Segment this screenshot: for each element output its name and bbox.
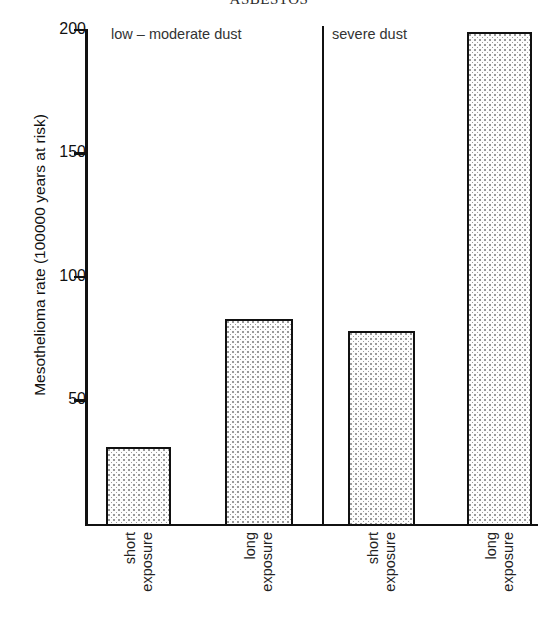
x-axis-label: longexposure [241,532,259,616]
x-axis-label-line1: long [242,532,258,559]
y-tick-label: 50 [40,390,86,408]
x-axis-label-line1: long [483,532,499,559]
chart-title: ASBESTOS [0,0,538,8]
panel-label-severe-dust: severe dust [332,26,407,42]
y-axis-title: Mesothelioma rate (100000 years at risk) [31,25,49,485]
bar [106,447,171,526]
x-axis-label-line2: exposure [381,532,399,616]
x-axis-label-line1: short [122,532,138,564]
panel-divider-line [322,26,324,525]
x-axis-label-line2: exposure [499,532,517,616]
x-axis-label: shortexposure [364,532,382,616]
x-axis-label-line1: short [365,532,381,564]
y-tick-label: 100 [40,267,86,285]
y-tick-label: 200 [40,20,86,38]
bar [225,319,293,526]
bar [467,32,532,526]
x-axis-label: longexposure [482,532,500,616]
bar [348,331,415,526]
x-axis-label: shortexposure [121,532,139,616]
x-axis-label-line2: exposure [138,532,156,616]
panel-label-low-moderate-dust: low – moderate dust [111,26,242,42]
y-tick-label: 150 [40,143,86,161]
chart-figure: ASBESTOS Mesothelioma rate (100000 years… [0,0,538,617]
x-axis-label-line2: exposure [258,532,276,616]
